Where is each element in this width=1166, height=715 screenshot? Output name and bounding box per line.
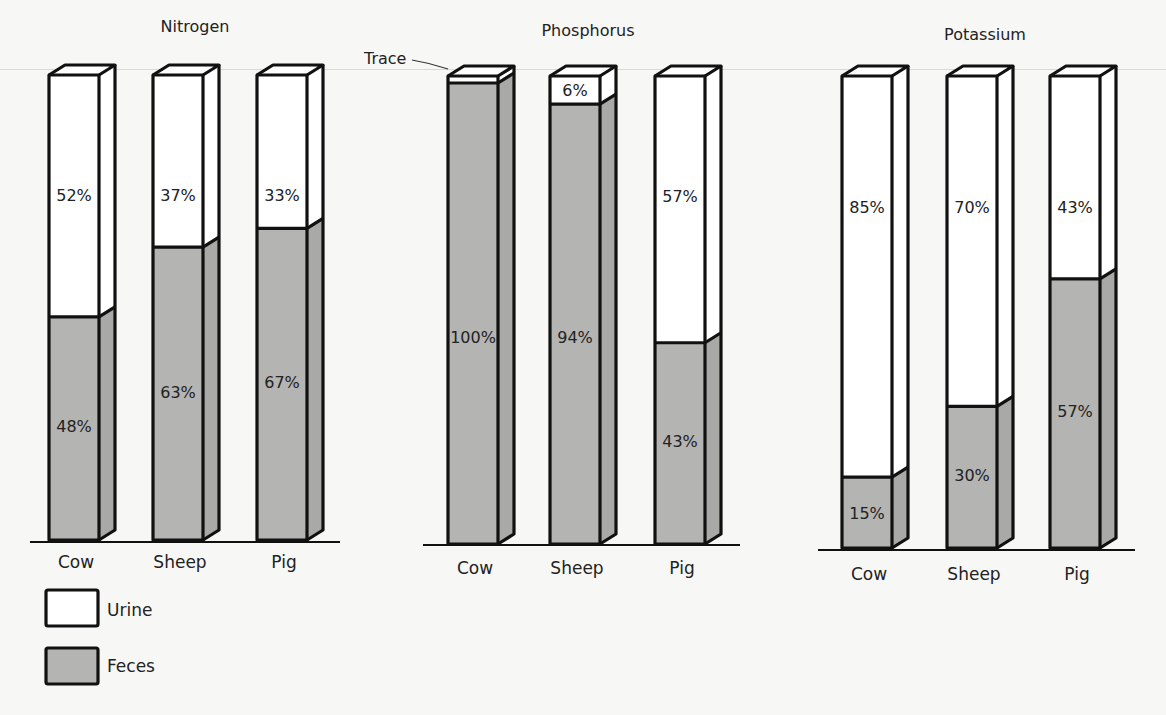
category-label: Cow <box>851 564 887 584</box>
panel-phosphorus: Phosphorus100%Cow6%94%Sheep57%43%Pig <box>423 21 740 578</box>
panel-title: Nitrogen <box>161 17 230 36</box>
category-label: Pig <box>669 558 694 578</box>
category-label: Sheep <box>947 564 1000 584</box>
urine-value-label: 33% <box>264 186 300 205</box>
legend-swatch-urine <box>46 590 98 626</box>
urine-segment <box>153 75 203 247</box>
feces-side <box>1100 269 1116 548</box>
bar-sheep: 70%30% <box>947 66 1013 548</box>
bar-pig: 43%57% <box>1050 66 1116 548</box>
category-label: Pig <box>271 552 296 572</box>
bar-sheep: 6%94% <box>550 66 616 544</box>
panel-title: Phosphorus <box>541 21 634 40</box>
feces-side <box>705 333 721 544</box>
category-label: Sheep <box>153 552 206 572</box>
urine-segment <box>655 76 705 343</box>
urine-side <box>997 66 1013 406</box>
bar-pig: 57%43% <box>655 66 721 544</box>
feces-side <box>99 307 115 540</box>
legend: UrineFeces <box>46 590 155 684</box>
urine-side <box>705 66 721 343</box>
urine-side <box>203 65 219 247</box>
panel-potassium: Potassium85%15%Cow70%30%Sheep43%57%Pig <box>818 25 1135 584</box>
urine-segment <box>947 76 997 406</box>
feces-segment <box>550 104 600 544</box>
legend-label-feces: Feces <box>107 656 155 676</box>
feces-side <box>498 73 514 544</box>
feces-value-label: 63% <box>160 383 196 402</box>
category-label: Pig <box>1064 564 1089 584</box>
urine-side <box>307 65 323 228</box>
urine-side <box>99 65 115 317</box>
trace-leader-line <box>412 60 448 69</box>
panel-nitrogen: Nitrogen52%48%Cow37%63%Sheep33%67%Pig <box>30 17 340 572</box>
urine-side <box>1100 66 1116 279</box>
urine-value-label: 52% <box>56 186 92 205</box>
feces-value-label: 15% <box>849 504 885 523</box>
urine-value-label: 85% <box>849 198 885 217</box>
feces-value-label: 100% <box>450 328 496 347</box>
panel-title: Potassium <box>944 25 1026 44</box>
feces-value-label: 67% <box>264 373 300 392</box>
category-label: Cow <box>58 552 94 572</box>
feces-side <box>600 94 616 544</box>
nutrient-excretion-chart: Nitrogen52%48%Cow37%63%Sheep33%67%PigPho… <box>0 0 1166 715</box>
legend-swatch-feces <box>46 648 98 684</box>
feces-value-label: 43% <box>662 432 698 451</box>
legend-label-urine: Urine <box>107 600 152 620</box>
urine-value-label: 70% <box>954 198 990 217</box>
bar-cow: 85%15% <box>842 66 908 548</box>
bar-pig: 33%67% <box>257 65 323 540</box>
category-label: Cow <box>457 558 493 578</box>
urine-segment <box>842 76 892 477</box>
bar-cow: 100% <box>448 66 514 544</box>
urine-value-label: 37% <box>160 186 196 205</box>
feces-side <box>892 467 908 548</box>
feces-side <box>997 396 1013 548</box>
feces-value-label: 57% <box>1057 402 1093 421</box>
urine-value-label: 57% <box>662 187 698 206</box>
category-label: Sheep <box>550 558 603 578</box>
bar-cow: 52%48% <box>49 65 115 540</box>
urine-segment <box>257 75 307 228</box>
feces-side <box>203 237 219 540</box>
feces-segment <box>448 83 498 544</box>
feces-value-label: 48% <box>56 417 92 436</box>
urine-value-label: 6% <box>562 81 587 100</box>
feces-value-label: 30% <box>954 466 990 485</box>
feces-value-label: 94% <box>557 328 593 347</box>
legend-item-feces: Feces <box>46 648 155 684</box>
bar-sheep: 37%63% <box>153 65 219 540</box>
trace-annotation: Trace <box>363 49 406 68</box>
urine-side <box>892 66 908 477</box>
legend-item-urine: Urine <box>46 590 152 626</box>
feces-side <box>307 218 323 540</box>
urine-segment <box>1050 76 1100 279</box>
urine-value-label: 43% <box>1057 198 1093 217</box>
